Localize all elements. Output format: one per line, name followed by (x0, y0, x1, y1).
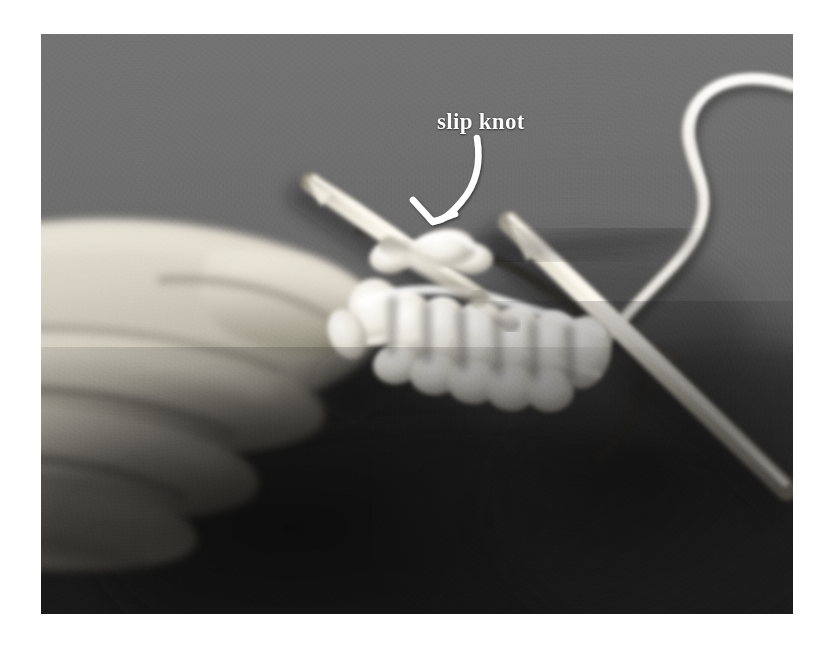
instructional-photograph: slip knot (41, 34, 793, 614)
slip-knot-label: slip knot (437, 110, 525, 133)
page-root: slip knot (0, 0, 836, 648)
photo-grain-secondary (41, 34, 793, 614)
